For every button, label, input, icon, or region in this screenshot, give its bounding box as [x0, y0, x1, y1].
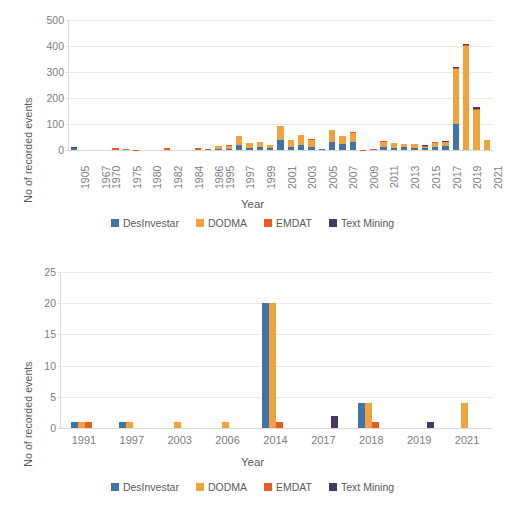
stacked-bar[interactable]	[246, 20, 252, 150]
stacked-bar[interactable]	[205, 20, 211, 150]
stacked-bar[interactable]	[236, 20, 242, 150]
chart-top-legend-item-desinventar[interactable]: DesInvestar	[111, 217, 179, 229]
chart-top-bar-group-1975	[121, 20, 131, 150]
x-tick-label-2013: 2013	[409, 166, 421, 189]
clustered-bar-group[interactable]	[406, 272, 434, 428]
chart-top-legend-item-text-mining[interactable]: Text Mining	[329, 217, 394, 229]
clustered-bar-group[interactable]	[310, 272, 338, 428]
stacked-bar[interactable]	[267, 20, 273, 150]
clustered-bar-group[interactable]	[71, 272, 99, 428]
stacked-bar[interactable]	[288, 20, 294, 150]
legend-swatch-icon	[329, 483, 337, 491]
chart-top-legend-item-dodma[interactable]: DODMA	[196, 217, 247, 229]
chart-bottom-gridline	[61, 428, 492, 429]
stacked-bar[interactable]	[143, 20, 149, 150]
stacked-bar[interactable]	[391, 20, 397, 150]
stacked-bar[interactable]	[432, 20, 438, 150]
bar-desinvestar	[71, 422, 78, 428]
legend-label: DesInvestar	[123, 481, 179, 493]
legend-label: EMDAT	[276, 217, 312, 229]
chart-bottom-bar-group-2014	[253, 272, 301, 428]
bar-segment-desinvestar	[267, 148, 273, 150]
stacked-bar[interactable]	[184, 20, 190, 150]
stacked-bar[interactable]	[308, 20, 314, 150]
stacked-bar[interactable]	[329, 20, 335, 150]
figure-root: No of recorded events 0100200300400500 1…	[0, 0, 505, 512]
stacked-bar[interactable]	[319, 20, 325, 150]
bar-dodma	[461, 403, 468, 428]
x-tick-label-2021: 2021	[492, 166, 504, 189]
bar-text-mining	[427, 422, 434, 428]
stacked-bar[interactable]	[370, 20, 376, 150]
chart-bottom-legend-item-dodma[interactable]: DODMA	[196, 481, 247, 493]
clustered-bar-group[interactable]	[119, 272, 147, 428]
bar-desinvestar	[358, 403, 365, 428]
stacked-bar[interactable]	[92, 20, 98, 150]
chart-top-bar-group-1996	[224, 20, 234, 150]
bar-dodma	[365, 403, 372, 428]
chart-bottom-bar-group-2003	[157, 272, 205, 428]
stacked-bar[interactable]	[360, 20, 366, 150]
stacked-bar[interactable]	[277, 20, 283, 150]
bar-segment-desinvestar	[339, 144, 345, 150]
clustered-bar-group[interactable]	[358, 272, 386, 428]
stacked-bar[interactable]	[422, 20, 428, 150]
chart-bottom-bar-group-1991	[61, 272, 109, 428]
bar-segment-desinvestar	[391, 148, 397, 150]
stacked-bar[interactable]	[339, 20, 345, 150]
stacked-bar[interactable]	[453, 20, 459, 150]
clustered-bar-group[interactable]	[167, 272, 195, 428]
legend-label: Text Mining	[341, 217, 394, 229]
bar-segment-desinvestar	[442, 146, 448, 150]
stacked-bar[interactable]	[174, 20, 180, 150]
clustered-bar-group[interactable]	[215, 272, 243, 428]
stacked-bar[interactable]	[442, 20, 448, 150]
chart-bottom-y-tick-label: 0	[50, 422, 56, 434]
stacked-bar[interactable]	[133, 20, 139, 150]
stacked-bar[interactable]	[71, 20, 77, 150]
chart-bottom-legend-item-desinventar[interactable]: DesInvestar	[111, 481, 179, 493]
stacked-bar[interactable]	[257, 20, 263, 150]
stacked-bar[interactable]	[226, 20, 232, 150]
bar-segment-desinvestar	[246, 148, 252, 150]
x-tick-label-2015: 2015	[430, 166, 442, 189]
chart-top-bar-group-2012	[389, 20, 399, 150]
legend-swatch-icon	[111, 483, 119, 491]
chart-bottom-legend-item-emdat[interactable]: EMDAT	[264, 481, 312, 493]
bar-segment-desinvestar	[319, 149, 325, 150]
stacked-bar[interactable]	[350, 20, 356, 150]
stacked-bar[interactable]	[215, 20, 221, 150]
stacked-bar[interactable]	[112, 20, 118, 150]
stacked-bar[interactable]	[298, 20, 304, 150]
stacked-bar[interactable]	[411, 20, 417, 150]
stacked-bar[interactable]	[102, 20, 108, 150]
x-tick-label-2019: 2019	[471, 166, 483, 189]
stacked-bar[interactable]	[81, 20, 87, 150]
legend-label: DesInvestar	[123, 217, 179, 229]
chart-top-bar-group-2017	[440, 20, 450, 150]
bar-dodma	[174, 422, 181, 428]
clustered-bar-group[interactable]	[454, 272, 482, 428]
chart-bottom-bar-group-2006	[205, 272, 253, 428]
bar-segment-desinvestar	[257, 147, 263, 150]
chart-top-bar-group-1966	[79, 20, 89, 150]
stacked-bar[interactable]	[484, 20, 490, 150]
chart-top-bar-group-1981	[152, 20, 162, 150]
stacked-bar[interactable]	[153, 20, 159, 150]
stacked-bar[interactable]	[401, 20, 407, 150]
stacked-bar[interactable]	[164, 20, 170, 150]
chart-top-bar-group-2014	[409, 20, 419, 150]
stacked-bar[interactable]	[463, 20, 469, 150]
clustered-bar-group[interactable]	[262, 272, 290, 428]
chart-top-bar-group-1983	[172, 20, 182, 150]
bar-segment-desinvestar	[277, 140, 283, 150]
stacked-bar[interactable]	[473, 20, 479, 150]
chart-top-bar-group-2010	[368, 20, 378, 150]
chart-top-y-tick-label: 400	[46, 40, 64, 52]
chart-bottom-legend-item-text-mining[interactable]: Text Mining	[329, 481, 394, 493]
stacked-bar[interactable]	[195, 20, 201, 150]
stacked-bar[interactable]	[380, 20, 386, 150]
stacked-bar[interactable]	[123, 20, 129, 150]
chart-top-bar-group-2016	[430, 20, 440, 150]
chart-top-legend-item-emdat[interactable]: EMDAT	[264, 217, 312, 229]
